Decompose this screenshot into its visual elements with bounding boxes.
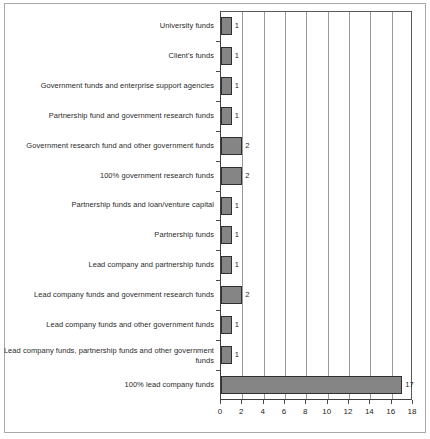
x-axis-tick — [220, 400, 221, 404]
bar — [221, 256, 232, 274]
x-axis-tick-label: 14 — [365, 407, 374, 417]
y-axis-tick — [216, 370, 221, 371]
bar-row: Lead company funds and government resear… — [0, 280, 430, 310]
bar-value-label: 2 — [245, 141, 249, 150]
category-label: Partnership funds — [2, 231, 214, 241]
bar — [221, 77, 232, 95]
category-label: 100% lead company funds — [2, 380, 214, 390]
y-axis-tick — [216, 191, 221, 192]
bar-value-label: 1 — [235, 320, 239, 329]
x-axis-tick — [348, 400, 349, 404]
category-label: Partnership fund and government research… — [2, 111, 214, 121]
category-label: Lead company funds and other government … — [2, 320, 214, 330]
bar-value-label: 2 — [245, 290, 249, 299]
bar — [221, 107, 232, 125]
bar-row: Government research fund and other gover… — [0, 131, 430, 161]
bar-value-label: 1 — [235, 21, 239, 30]
bar-row: Lead company funds, partnership funds an… — [0, 340, 430, 370]
bar-row: Partnership funds — [0, 220, 430, 250]
x-axis-tick — [327, 400, 328, 404]
y-axis-tick — [216, 131, 221, 132]
bar-value-label: 1 — [235, 51, 239, 60]
bar-row: Lead company funds and other government … — [0, 310, 430, 340]
category-label: Lead company funds and government resear… — [2, 291, 214, 301]
y-axis-tick — [216, 71, 221, 72]
y-axis-tick — [216, 340, 221, 341]
x-axis-tick-label: 16 — [386, 407, 395, 417]
y-axis-tick — [216, 280, 221, 281]
y-axis-tick — [216, 41, 221, 42]
x-axis-tick-label: 0 — [218, 407, 222, 417]
bar — [221, 137, 242, 155]
bar-row: University funds — [0, 11, 430, 41]
y-axis-tick — [216, 161, 221, 162]
x-axis-tick — [263, 400, 264, 404]
category-label: Lead company funds, partnership funds an… — [2, 346, 214, 365]
category-label: University funds — [2, 21, 214, 31]
x-axis-tick-label: 2 — [239, 407, 243, 417]
bar-row: Partnership fund and government research… — [0, 101, 430, 131]
bar — [221, 316, 232, 334]
bar-value-label: 2 — [245, 171, 249, 180]
y-axis-tick — [216, 101, 221, 102]
category-label: 100% government research funds — [2, 171, 214, 181]
bar — [221, 376, 402, 394]
bar — [221, 17, 232, 35]
y-axis-tick — [216, 250, 221, 251]
bar — [221, 167, 242, 185]
bar — [221, 346, 232, 364]
bar-row: Partnership funds and loan/venture capit… — [0, 191, 430, 221]
bar-value-label: 17 — [405, 380, 413, 389]
bar-value-label: 1 — [235, 350, 239, 359]
category-label: Government funds and enterprise support … — [2, 81, 214, 91]
x-axis-tick-label: 12 — [344, 407, 353, 417]
x-axis-tick — [412, 400, 413, 404]
bar-row: Government funds and enterprise support … — [0, 71, 430, 101]
chart-area: University funds1Client's funds1Governme… — [0, 0, 430, 439]
bar-chart-figure: University funds1Client's funds1Governme… — [0, 0, 430, 439]
y-axis-tick — [216, 220, 221, 221]
x-axis: 024681012141618 — [220, 400, 412, 430]
x-axis-tick — [305, 400, 306, 404]
x-axis-tick-label: 18 — [408, 407, 417, 417]
bar — [221, 47, 232, 65]
bar — [221, 286, 242, 304]
bar — [221, 197, 232, 215]
x-axis-tick — [369, 400, 370, 404]
bar-value-label: 1 — [235, 260, 239, 269]
bar-row: Lead company and partnership funds — [0, 250, 430, 280]
bar-value-label: 1 — [235, 81, 239, 90]
x-axis-tick — [391, 400, 392, 404]
bar-rows: University funds1Client's funds1Governme… — [0, 11, 430, 400]
x-axis-tick-label: 8 — [303, 407, 307, 417]
category-label: Client's funds — [2, 51, 214, 61]
x-axis-tick — [241, 400, 242, 404]
x-axis-tick-label: 4 — [260, 407, 264, 417]
bar-value-label: 1 — [235, 230, 239, 239]
bar-value-label: 1 — [235, 201, 239, 210]
y-axis-tick — [216, 310, 221, 311]
bar — [221, 226, 232, 244]
category-label: Lead company and partnership funds — [2, 261, 214, 271]
x-axis-tick-label: 10 — [322, 407, 331, 417]
x-axis-tick-label: 6 — [282, 407, 286, 417]
x-axis-tick — [284, 400, 285, 404]
category-label: Government research fund and other gover… — [2, 141, 214, 151]
category-label: Partnership funds and loan/venture capit… — [2, 201, 214, 211]
bar-row: 100% government research funds — [0, 161, 430, 191]
bar-value-label: 1 — [235, 111, 239, 120]
bar-row: Client's funds — [0, 41, 430, 71]
